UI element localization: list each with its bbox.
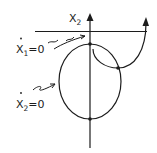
equilibrium-point-right (116, 66, 120, 70)
x2-axis-arrowhead-icon (87, 13, 94, 21)
equilibrium-point-bottom (88, 117, 92, 121)
svg-text:X1=0: X1=0 (16, 43, 45, 58)
dot-accent-icon (20, 38, 22, 40)
trajectory (93, 17, 149, 68)
x2-dot-pointer-arrow (33, 84, 55, 90)
trajectory-arrowhead-icon (143, 17, 150, 26)
svg-text:X2=0: X2=0 (16, 98, 45, 113)
x1-dot-pointer-arrows (48, 35, 85, 49)
dot-accent-icon (20, 92, 22, 94)
x1-dot-zero-label: X1=0 (16, 38, 45, 58)
x2-axis-label: X2 (69, 12, 82, 27)
phase-plane-diagram: X2 X1=0 (0, 0, 157, 153)
equilibrium-point-top (88, 42, 92, 46)
x2-axis (87, 13, 94, 148)
x2-dot-zero-label: X2=0 (16, 92, 45, 112)
